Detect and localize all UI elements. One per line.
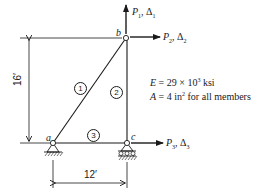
- joint-a: [50, 140, 55, 145]
- member-label-1: 1: [74, 82, 87, 95]
- node-label-a: a: [46, 133, 51, 143]
- member-label-3: 3: [87, 129, 100, 142]
- height-dimension-label: 16′: [12, 73, 23, 86]
- joint-c: [124, 140, 129, 145]
- load-label-p3: P3, Δ3: [166, 138, 190, 150]
- node-label-b: b: [116, 28, 121, 38]
- node-label-c: c: [131, 132, 135, 142]
- load-label-p2: P2, Δ2: [163, 32, 187, 44]
- load-label-p1: P1, Δ1: [132, 7, 156, 19]
- modulus-line: E = 29 × 103 ksi: [150, 76, 251, 90]
- width-dimension-label: 12′: [84, 169, 97, 180]
- material-properties: E = 29 × 103 ksi A = 4 in2 for all membe…: [150, 76, 251, 104]
- joint-b: [123, 35, 128, 40]
- member-label-2: 2: [110, 86, 123, 99]
- area-line: A = 4 in2 for all members: [150, 90, 251, 104]
